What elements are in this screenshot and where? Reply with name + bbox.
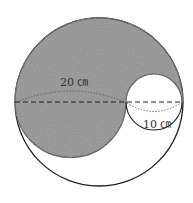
label-10cm: 10 ㎝ — [143, 118, 172, 131]
geometry-diagram: 20 ㎝ 10 ㎝ — [0, 0, 193, 203]
label-20cm: 20 ㎝ — [60, 76, 89, 89]
